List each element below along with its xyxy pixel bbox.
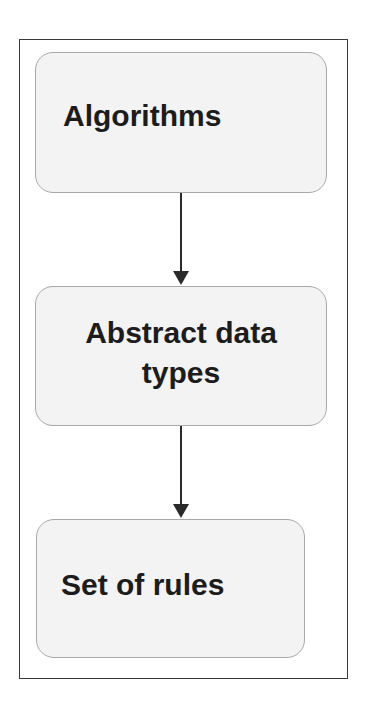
- node-label: Algorithms: [63, 96, 221, 136]
- arrowhead-icon: [173, 504, 189, 518]
- node-abstract-data-types: Abstract data types: [35, 286, 327, 426]
- node-label: Set of rules: [61, 565, 224, 605]
- node-set-of-rules: Set of rules: [36, 519, 305, 658]
- node-label: Abstract data types: [61, 313, 301, 393]
- node-algorithms: Algorithms: [35, 52, 327, 193]
- arrowhead-icon: [173, 271, 189, 285]
- arrow-abstract-data-types-to-set-of-rules: [180, 426, 182, 506]
- arrow-algorithms-to-abstract-data-types: [180, 193, 182, 273]
